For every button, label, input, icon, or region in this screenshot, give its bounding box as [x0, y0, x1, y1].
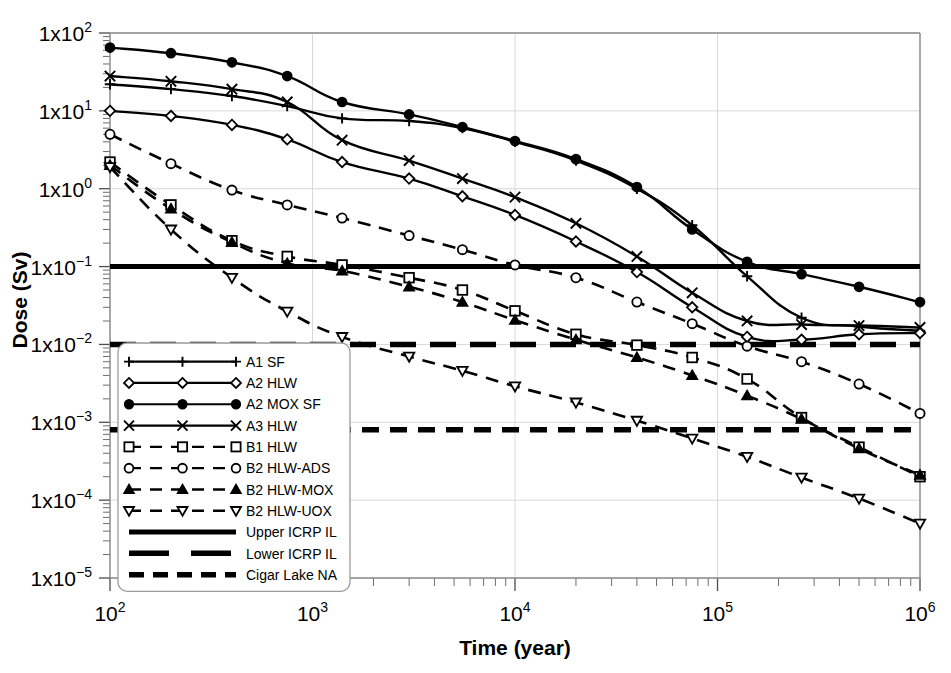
y-tick-label: 1x100	[39, 175, 93, 201]
x-axis-title: Time (year)	[459, 636, 571, 659]
y-axis-title: Dose (Sv)	[8, 252, 31, 349]
legend-item-label: A2 HLW	[246, 375, 298, 391]
legend-item-label: A2 MOX SF	[246, 396, 321, 412]
legend-item-label: A3 HLW	[246, 418, 298, 434]
chart-legend[interactable]: A1 SFA2 HLWA2 MOX SFA3 HLWB1 HLWB2 HLW-A…	[118, 343, 350, 591]
legend-item-label: B2 HLW-ADS	[246, 460, 330, 476]
legend-item-label: A1 SF	[246, 354, 285, 370]
legend-item-label: Cigar Lake NA	[246, 567, 338, 583]
legend-item-label: B1 HLW	[246, 439, 298, 455]
y-tick-label: 1x102	[39, 19, 93, 45]
y-tick-label: 1x101	[39, 97, 93, 123]
legend-item-label: B2 HLW-UOX	[246, 503, 332, 519]
legend-item-label: Lower ICRP IL	[246, 546, 337, 562]
legend-item-label: B2 HLW-MOX	[246, 482, 334, 498]
dose-vs-time-chart: 1x1021x1011x1001x10−11x10−21x10−31x10−41…	[0, 0, 951, 673]
legend-item-label: Upper ICRP IL	[246, 524, 337, 540]
